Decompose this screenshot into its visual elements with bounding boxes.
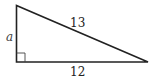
right-angle-marker bbox=[17, 53, 26, 62]
vertical-leg-label: a bbox=[6, 30, 13, 44]
horizontal-leg-label: 12 bbox=[70, 65, 85, 79]
hypotenuse-label: 13 bbox=[70, 16, 85, 30]
right-triangle bbox=[17, 6, 149, 63]
triangle-diagram: a 13 12 bbox=[0, 0, 157, 84]
